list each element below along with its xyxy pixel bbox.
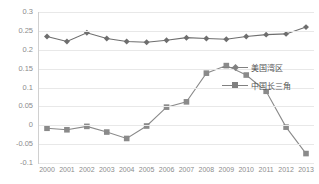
x-tick-label: 2013: [298, 165, 314, 174]
data-point-marker: [64, 127, 70, 133]
data-point-marker: [203, 35, 209, 41]
gridline: [39, 50, 314, 51]
gridline: [39, 163, 314, 164]
y-tick-label: 0.15: [18, 65, 33, 73]
data-point-marker: [124, 136, 130, 142]
gridline: [39, 12, 314, 13]
data-point-marker: [183, 35, 189, 41]
data-point-marker: [144, 39, 150, 45]
x-tick-label: 2003: [99, 165, 115, 174]
y-tick-label: 0.2: [23, 46, 33, 54]
y-tick-label: -0.1: [20, 159, 33, 167]
x-tick-label: 2005: [139, 165, 155, 174]
x-tick-label: 2000: [39, 165, 55, 174]
gridline: [39, 125, 314, 126]
data-point-marker: [223, 36, 229, 42]
x-tick-label: 2006: [159, 165, 175, 174]
x-tick-label: 2010: [238, 165, 254, 174]
data-point-marker: [44, 125, 50, 131]
legend-label-series1: 美国湾区: [251, 62, 283, 73]
data-point-marker: [104, 35, 110, 41]
y-tick-label: 0.3: [23, 8, 33, 16]
gridline: [39, 106, 314, 107]
chart-legend: 美国湾区 中国长三角: [222, 58, 318, 94]
x-tick-label: 2004: [119, 165, 135, 174]
data-point-marker: [164, 37, 170, 43]
data-point-marker: [104, 129, 110, 135]
data-point-marker: [184, 99, 190, 105]
y-axis: 0.30.250.20.150.10.050-0.05-0.1: [0, 0, 33, 184]
legend-item-series1[interactable]: 美国湾区: [222, 58, 318, 76]
legend-marker-diamond-icon: [222, 62, 248, 72]
y-tick-label: 0.1: [23, 84, 33, 92]
x-tick-label: 2001: [59, 165, 75, 174]
x-tick-label: 2007: [179, 165, 195, 174]
y-tick-label: 0.05: [18, 102, 33, 110]
data-point-marker: [64, 38, 70, 44]
gridline: [39, 144, 314, 145]
x-tick-label: 2012: [278, 165, 294, 174]
legend-label-series2: 中国长三角: [251, 80, 291, 91]
gridline: [39, 31, 314, 32]
data-point-marker: [44, 34, 50, 40]
data-point-marker: [124, 38, 130, 44]
legend-item-series2[interactable]: 中国长三角: [222, 76, 318, 94]
data-point-marker: [204, 70, 210, 76]
line-chart: 0.30.250.20.150.10.050-0.05-0.1 20002001…: [0, 0, 319, 184]
data-point-marker: [303, 24, 309, 30]
x-tick-label: 2009: [219, 165, 235, 174]
y-tick-label: 0: [29, 121, 33, 129]
y-tick-label: 0.25: [18, 27, 33, 35]
data-point-marker: [263, 32, 269, 38]
data-point-marker: [243, 34, 249, 40]
legend-marker-square-icon: [222, 80, 248, 90]
y-tick-label: -0.05: [16, 140, 33, 148]
x-tick-label: 2008: [199, 165, 215, 174]
x-tick-label: 2002: [79, 165, 95, 174]
x-tick-label: 2011: [259, 165, 274, 174]
x-axis: 2000200120022003200420052006200720082009…: [39, 165, 314, 179]
data-point-marker: [303, 151, 309, 157]
